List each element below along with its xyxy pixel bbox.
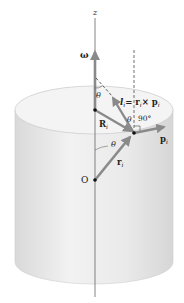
angular-momentum-diagram: z ω θ Ri li= ri× pi θ 90° pi ri θ O [0,0,184,303]
right-angle-label: 90° [138,114,152,123]
particle-point [132,131,136,135]
omega-label: ω [80,50,89,60]
theta-mid-label: θ [127,115,132,124]
diagram-canvas: z ω θ Ri li= ri× pi θ 90° pi ri θ O [0,0,184,303]
theta-top-label: θ [96,91,101,100]
z-axis-label: z [92,8,98,17]
origin-label: O [81,175,88,185]
origin-point [93,178,97,182]
theta-bottom-label: θ [111,140,116,149]
center-point [93,108,97,112]
